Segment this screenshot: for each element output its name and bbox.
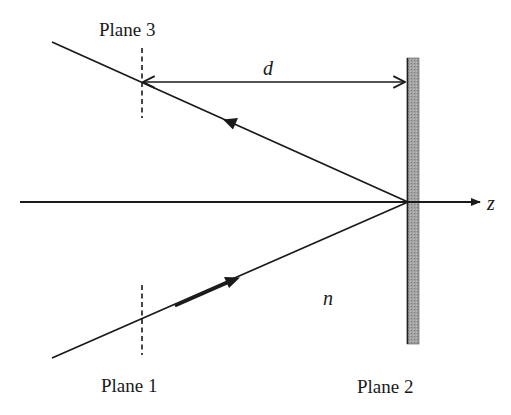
axis-label: z bbox=[486, 192, 495, 214]
refractive-index-label: n bbox=[323, 287, 333, 309]
plane1-label: Plane 1 bbox=[101, 375, 157, 396]
plane2-label: Plane 2 bbox=[357, 376, 413, 397]
incident-ray-thick-segment bbox=[175, 281, 232, 306]
plane3-label: Plane 3 bbox=[99, 19, 155, 40]
reflection-diagram: Plane 3 Plane 1 Plane 2 d n z bbox=[0, 0, 511, 415]
distance-label: d bbox=[263, 57, 274, 79]
